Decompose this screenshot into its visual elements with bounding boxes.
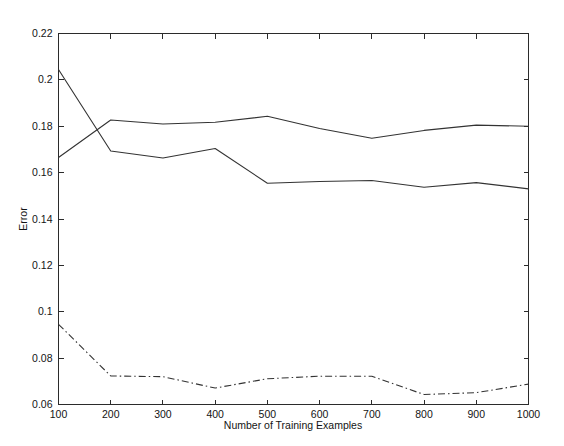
y-tick-label: 0.1 (38, 305, 53, 317)
y-tick-label: 0.22 (32, 27, 53, 39)
y-tick-label: 0.16 (32, 166, 53, 178)
figure-canvas: 1002003004005006007008009001000 0.060.08… (0, 0, 564, 446)
x-tick-label: 800 (415, 408, 433, 420)
chart-svg: 1002003004005006007008009001000 0.060.08… (0, 0, 564, 446)
x-tick-label: 700 (363, 408, 381, 420)
y-tick-label: 0.06 (32, 398, 53, 410)
x-axis-title: Number of Training Examples (224, 419, 362, 431)
y-axis-title: Error (17, 207, 29, 231)
y-tick-label: 0.08 (32, 352, 53, 364)
y-tick-label: 0.12 (32, 259, 53, 271)
chart-background (0, 0, 564, 446)
x-tick-label: 900 (468, 408, 486, 420)
x-tick-label: 600 (311, 408, 329, 420)
y-tick-label: 0.14 (32, 213, 53, 225)
x-tick-label: 200 (102, 408, 120, 420)
x-tick-label: 400 (206, 408, 224, 420)
x-tick-label: 300 (154, 408, 172, 420)
x-tick-label: 1000 (517, 408, 541, 420)
y-tick-label: 0.2 (38, 73, 53, 85)
y-tick-label: 0.18 (32, 120, 53, 132)
x-tick-label: 500 (259, 408, 277, 420)
